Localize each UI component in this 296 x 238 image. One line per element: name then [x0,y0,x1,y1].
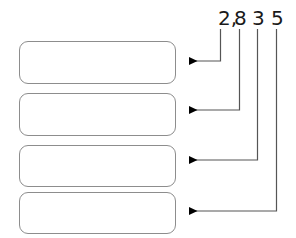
diagram-canvas: 2, 8 3 5 [0,0,296,238]
digit-label-ones: 5 [271,8,284,28]
digit-label-hundreds: 8 [234,8,247,28]
leader-line-1 [189,29,221,61]
leader-line-4 [189,29,277,211]
digit-label-tens: 3 [252,8,265,28]
answer-box-1[interactable] [19,41,176,84]
answer-box-4[interactable] [19,192,176,234]
leader-line-3 [189,29,258,160]
answer-box-2[interactable] [19,93,176,136]
answer-box-3[interactable] [19,145,176,187]
leader-line-2 [189,29,240,110]
